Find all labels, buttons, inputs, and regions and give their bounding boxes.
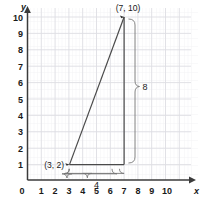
- y-tick-5: 5: [18, 95, 23, 105]
- point-label-bottom: (3, 2): [44, 160, 64, 170]
- y-tick-9: 9: [18, 29, 23, 39]
- vertex-markers: [65, 16, 124, 166]
- graph-canvas: 8 4 (7, 10) (3, 2) y x 10 9 8 7 6 5 4: [0, 0, 203, 208]
- x-tick-3: 3: [66, 186, 71, 196]
- y-tick-4: 4: [18, 111, 23, 121]
- x-tick-6: 6: [108, 186, 113, 196]
- x-tick-8: 8: [135, 186, 140, 196]
- x-tick-10: 10: [162, 186, 172, 196]
- x-tick-9: 9: [149, 186, 154, 196]
- y-tick-3: 3: [18, 127, 23, 137]
- x-tick-1: 1: [39, 186, 44, 196]
- y-tick-2: 2: [18, 144, 23, 154]
- point-label-top: (7, 10): [116, 3, 141, 13]
- x-tick-2: 2: [53, 186, 58, 196]
- y-tick-1: 1: [18, 160, 23, 170]
- x-tick-0: 0: [19, 186, 24, 196]
- x-tick-7: 7: [122, 186, 127, 196]
- x-axis-arrow: [189, 177, 196, 184]
- y-tick-labels: 10 9 8 7 6 5 4 3 2 1: [13, 13, 23, 171]
- y-tick-8: 8: [18, 45, 23, 55]
- x-tick-labels: 0 1 2 3 4 5 6 7 8 9 10: [19, 186, 172, 196]
- coordinate-plane-figure: 8 4 (7, 10) (3, 2) y x 10 9 8 7 6 5 4: [0, 0, 203, 208]
- y-tick-6: 6: [18, 78, 23, 88]
- y-axis-label: y: [20, 2, 27, 12]
- x-tick-4: 4: [80, 186, 85, 196]
- x-tick-5: 5: [94, 186, 99, 196]
- y-tick-10: 10: [13, 13, 23, 23]
- vertical-measure-label: 8: [142, 82, 147, 92]
- x-axis-label: x: [193, 186, 200, 196]
- horizontal-measure-brace: [62, 169, 124, 178]
- y-tick-7: 7: [18, 62, 23, 72]
